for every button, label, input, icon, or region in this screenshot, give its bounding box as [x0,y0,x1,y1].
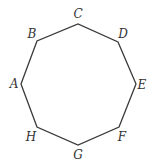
octagon-outline [21,24,136,145]
octagon-diagram: A B C D E F G H [0,0,154,164]
vertex-label-g: G [73,148,83,162]
vertex-label-e: E [137,78,147,92]
vertex-label-a: A [9,77,19,91]
vertex-label-b: B [27,27,37,41]
vertex-label-f: F [117,130,127,144]
vertex-labels: A B C D E F G H [9,7,147,162]
vertex-label-c: C [73,7,82,21]
vertex-label-d: D [117,27,128,41]
vertex-label-h: H [25,130,37,144]
